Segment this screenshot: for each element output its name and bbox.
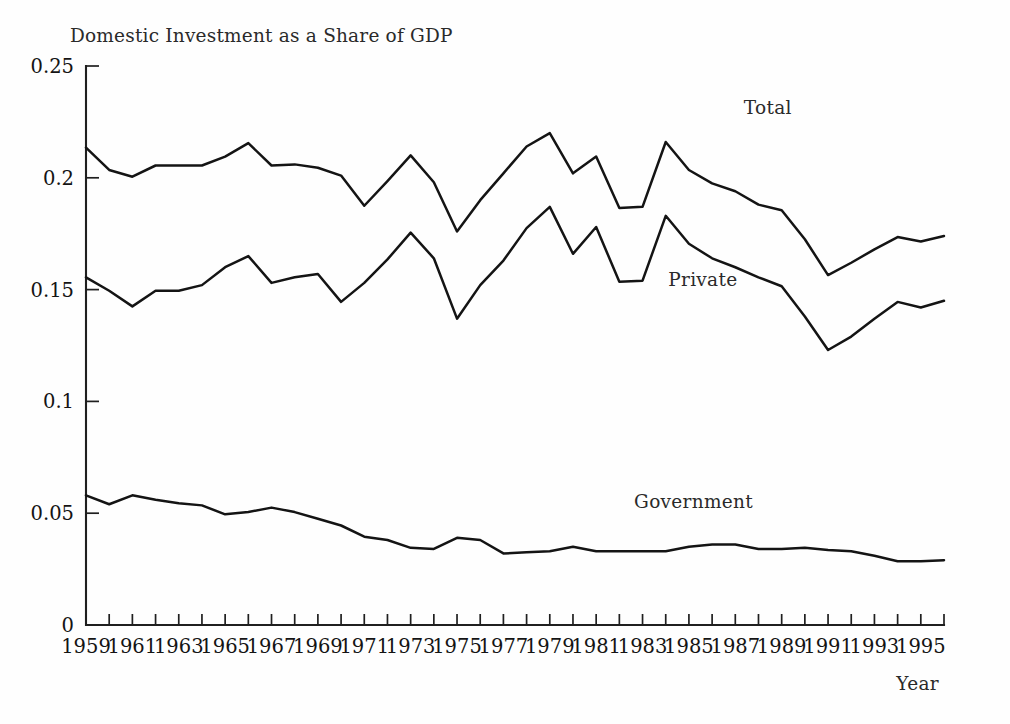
x-tick-label: 1987 <box>710 635 760 658</box>
series-label-total: Total <box>744 97 792 118</box>
chart-title: Domestic Investment as a Share of GDP <box>70 25 453 46</box>
y-tick-group: 00.050.10.150.20.25 <box>31 55 99 637</box>
x-tick-label: 1963 <box>154 635 204 658</box>
chart-title-group: Domestic Investment as a Share of GDP <box>70 25 453 46</box>
x-tick-label: 1961 <box>108 635 158 658</box>
x-tick-label: 1991 <box>803 635 853 658</box>
x-tick-label: 1995 <box>896 635 946 658</box>
x-tick-group: 1959196119631965196719691971197319751977… <box>61 614 945 658</box>
series-group <box>86 133 944 561</box>
y-tick-label: 0 <box>62 614 74 637</box>
series-line-government <box>86 495 944 561</box>
axes-group <box>86 66 944 625</box>
series-line-private <box>86 207 944 350</box>
y-tick-label: 0.05 <box>31 502 74 525</box>
x-tick-label: 1959 <box>61 635 111 658</box>
x-tick-label: 1979 <box>525 635 575 658</box>
line-chart: Domestic Investment as a Share of GDP 00… <box>0 0 1010 724</box>
y-tick-label: 0.15 <box>31 279 74 302</box>
x-tick-label: 1969 <box>293 635 343 658</box>
x-axis-name-group: Year <box>895 673 939 694</box>
x-tick-label: 1993 <box>850 635 900 658</box>
x-tick-label: 1973 <box>386 635 436 658</box>
series-line-total <box>86 133 944 275</box>
chart-figure: Domestic Investment as a Share of GDP 00… <box>0 0 1010 724</box>
x-tick-label: 1965 <box>200 635 250 658</box>
series-label-group: TotalPrivateGovernment <box>634 97 792 512</box>
x-tick-label: 1985 <box>664 635 714 658</box>
x-tick-label: 1967 <box>247 635 297 658</box>
x-axis-title: Year <box>895 673 939 694</box>
y-tick-label: 0.1 <box>43 390 74 413</box>
x-tick-label: 1971 <box>339 635 389 658</box>
x-tick-label: 1981 <box>571 635 621 658</box>
x-tick-label: 1975 <box>432 635 482 658</box>
x-tick-label: 1977 <box>479 635 529 658</box>
series-label-private: Private <box>668 269 737 290</box>
x-tick-label: 1983 <box>618 635 668 658</box>
y-tick-label: 0.25 <box>31 55 74 78</box>
y-tick-label: 0.2 <box>43 167 74 190</box>
x-tick-label: 1989 <box>757 635 807 658</box>
axis-spines <box>86 66 944 625</box>
series-label-government: Government <box>634 491 753 512</box>
